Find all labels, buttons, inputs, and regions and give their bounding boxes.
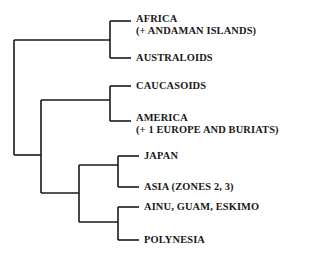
leaf-label-asia-line1: ASIA (ZONES 2, 3) (144, 181, 234, 192)
leaf-label-ainu-guam-eskimo: AINU, GUAM, ESKIMO (144, 201, 259, 213)
cladogram-figure: AFRICA (+ ANDAMAN ISLANDS) AUSTRALOIDS C… (0, 0, 316, 255)
leaf-label-asia: ASIA (ZONES 2, 3) (144, 181, 234, 193)
leaf-label-polynesia-line1: POLYNESIA (144, 234, 205, 245)
leaf-label-america-line1: AMERICA (136, 112, 188, 123)
leaf-label-africa-line2: (+ ANDAMAN ISLANDS) (136, 25, 256, 37)
leaf-label-caucasoids-line1: CAUCASOIDS (136, 80, 206, 91)
leaf-label-japan-line1: JAPAN (144, 150, 178, 161)
leaf-label-ainu-guam-eskimo-line1: AINU, GUAM, ESKIMO (144, 201, 259, 212)
leaf-label-polynesia: POLYNESIA (144, 234, 205, 246)
leaf-label-america-line2: (+ 1 EUROPE AND BURIATS) (136, 124, 279, 136)
leaf-label-australoids-line1: AUSTRALOIDS (136, 52, 213, 63)
leaf-label-caucasoids: CAUCASOIDS (136, 80, 206, 92)
leaf-label-america: AMERICA (+ 1 EUROPE AND BURIATS) (136, 112, 279, 137)
leaf-label-africa: AFRICA (+ ANDAMAN ISLANDS) (136, 13, 256, 38)
leaf-label-africa-line1: AFRICA (136, 13, 177, 24)
leaf-label-japan: JAPAN (144, 150, 178, 162)
leaf-label-australoids: AUSTRALOIDS (136, 52, 213, 64)
